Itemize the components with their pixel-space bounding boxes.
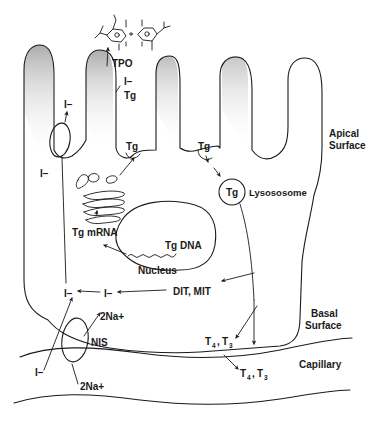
label-iodide-recycled-left: I− xyxy=(64,288,73,299)
label-na-out: 2Na+ xyxy=(100,311,124,322)
vesicles xyxy=(76,173,117,188)
svg-text:3: 3 xyxy=(264,374,268,381)
label-dit-mit: DIT, MIT xyxy=(173,286,211,297)
label-tg-top: Tg xyxy=(124,90,136,101)
thyroid-cell-diagram: TPO I− Tg I− I− Tg Tg Tg Lysososome Apic… xyxy=(0,0,379,423)
label-iodide-capillary: I− xyxy=(35,367,44,378)
label-iodide-left: I− xyxy=(40,168,49,179)
label-basal-surface-1: Basal xyxy=(311,308,338,319)
basal-membrane-line xyxy=(20,338,352,357)
label-tg-endocytosis: Tg xyxy=(198,141,210,152)
svg-text:4: 4 xyxy=(247,374,251,381)
thyronine-structure xyxy=(95,15,170,50)
label-apical-surface-2: Surface xyxy=(329,140,366,151)
nis-transporter xyxy=(59,316,91,363)
svg-text:T: T xyxy=(257,368,263,379)
label-nucleus: Nucleus xyxy=(138,265,177,276)
nucleus xyxy=(116,201,216,270)
golgi-apparatus xyxy=(83,191,124,224)
capillary-wall xyxy=(14,390,350,404)
svg-text:,: , xyxy=(252,368,255,379)
label-iodide-apical-out: I− xyxy=(64,99,73,110)
label-iodide-tg-top: I− xyxy=(124,76,133,87)
label-lysosome-content: Tg xyxy=(226,187,238,198)
label-tg-dna: Tg DNA xyxy=(165,240,202,251)
label-tg-exocytosis: Tg xyxy=(126,141,138,152)
svg-text:4: 4 xyxy=(212,342,216,349)
label-capillary: Capillary xyxy=(299,359,342,370)
label-iodide-recycled-mid: I− xyxy=(104,288,113,299)
svg-text:T: T xyxy=(240,368,246,379)
label-lysosome: Lysososome xyxy=(249,187,307,198)
svg-text:T: T xyxy=(205,336,211,347)
svg-text:T: T xyxy=(222,336,228,347)
label-t4-t3-cell: T 4 , T 3 xyxy=(205,336,233,349)
label-tg-mrna: Tg mRNA xyxy=(72,227,118,238)
label-apical-surface-1: Apical xyxy=(329,128,359,139)
label-nis: NIS xyxy=(91,337,108,348)
label-tpo: TPO xyxy=(112,58,133,69)
label-t4-t3-capillary: T 4 , T 3 xyxy=(240,368,268,381)
svg-text:3: 3 xyxy=(229,342,233,349)
svg-text:,: , xyxy=(217,336,220,347)
label-na-in: 2Na+ xyxy=(80,381,104,392)
label-basal-surface-2: Surface xyxy=(305,320,342,331)
tg-dna-strand xyxy=(128,254,176,258)
